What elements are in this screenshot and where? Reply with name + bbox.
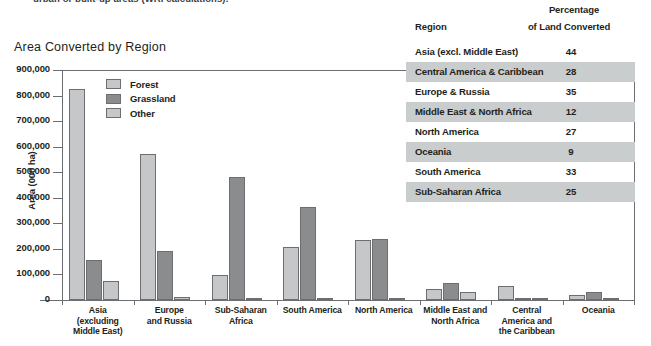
y-axis-tick: 100,000 <box>0 274 62 275</box>
table-cell-region: Asia (excl. Middle East) <box>415 46 518 57</box>
y-axis-tick-label: 200,000 <box>16 242 50 253</box>
table-cell-percentage: 33 <box>553 166 589 177</box>
x-axis-category-line: Central <box>491 305 563 316</box>
y-axis-tick-mark <box>53 70 62 71</box>
x-axis-category-line: North Africa <box>420 316 492 327</box>
table-cell-percentage: 12 <box>553 106 589 117</box>
y-axis-tick-mark <box>53 198 62 199</box>
x-axis-category-label: CentralAmerica andthe Caribbean <box>491 305 563 337</box>
table-cell-region: Central America & Caribbean <box>415 66 543 77</box>
table-cell-region: South America <box>415 166 480 177</box>
y-axis-tick-label: 100,000 <box>16 267 50 278</box>
legend-swatch <box>106 94 121 104</box>
x-axis-category-line: Europe <box>134 305 206 316</box>
y-axis-tick: 0 <box>0 300 62 301</box>
chart-title: Area Converted by Region <box>14 40 166 54</box>
y-axis-tick-label: 800,000 <box>16 89 50 100</box>
y-axis-tick-mark <box>53 121 62 122</box>
y-axis-label: Area (000 ha) <box>26 126 37 236</box>
x-axis-category-line: Sub-Saharan <box>205 305 277 316</box>
x-axis-category-line: America and <box>491 316 563 327</box>
x-axis-tick <box>634 300 635 305</box>
y-axis-tick-label: 700,000 <box>16 114 50 125</box>
y-axis-tick: 900,000 <box>0 70 62 71</box>
y-axis-tick-mark <box>53 274 62 275</box>
x-axis-category-line: Africa <box>205 316 277 327</box>
x-axis-category-line: Asia <box>62 305 134 316</box>
x-axis-category-label: Sub-SaharanAfrica <box>205 305 277 326</box>
table-row: Asia (excl. Middle East)44 <box>406 42 635 62</box>
table-cell-percentage: 28 <box>553 66 589 77</box>
percentage-table: Region Percentage of Land Converted Asia… <box>406 0 635 202</box>
legend-label: Other <box>130 108 155 119</box>
y-axis-tick-mark <box>53 172 62 173</box>
table-row: Middle East & North Africa12 <box>406 102 635 122</box>
legend-swatch <box>106 108 121 118</box>
table-header-percentage-line1: Percentage <box>518 4 630 15</box>
y-axis-tick: 700,000 <box>0 121 62 122</box>
table-header-percentage-line2: of Land Converted <box>508 21 630 32</box>
y-axis-tick-label: 0 <box>45 293 50 304</box>
table-cell-region: North America <box>415 126 479 137</box>
x-axis-category-label: Middle East andNorth Africa <box>420 305 492 326</box>
chart-legend: ForestGrasslandOther <box>106 77 176 121</box>
legend-swatch <box>106 79 121 89</box>
y-axis-tick-label: 900,000 <box>16 63 50 74</box>
table-cell-region: Middle East & North Africa <box>415 106 532 117</box>
table-header-region: Region <box>415 21 447 32</box>
table-row: Sub-Saharan Africa25 <box>406 182 635 202</box>
table-cell-percentage: 27 <box>553 126 589 137</box>
bar-group <box>212 70 262 300</box>
table-body: Asia (excl. Middle East)44Central Americ… <box>406 42 635 202</box>
table-row: Oceania9 <box>406 142 635 162</box>
y-axis-tick-mark <box>53 300 62 301</box>
x-axis-category-line: Middle East) <box>62 326 134 337</box>
legend-item: Grassland <box>106 92 176 107</box>
y-axis-tick-mark <box>53 249 62 250</box>
table-row: Central America & Caribbean28 <box>406 62 635 82</box>
legend-item: Forest <box>106 77 176 92</box>
y-axis-tick-mark <box>53 223 62 224</box>
table-cell-region: Oceania <box>415 146 451 157</box>
table-row: North America27 <box>406 122 635 142</box>
legend-label: Grassland <box>130 93 176 104</box>
table-row: South America33 <box>406 162 635 182</box>
y-axis-tick-mark <box>53 96 62 97</box>
table-cell-percentage: 9 <box>553 146 589 157</box>
x-axis-category-line: Oceania <box>563 305 635 316</box>
x-axis-category-line: North America <box>348 305 420 316</box>
x-axis-category-line: (excluding <box>62 316 134 327</box>
y-axis-tick-mark <box>53 147 62 148</box>
table-cell-percentage: 44 <box>553 46 589 57</box>
table-header: Region Percentage of Land Converted <box>406 0 635 42</box>
x-axis-line <box>40 300 635 301</box>
table-cell-region: Europe & Russia <box>415 86 490 97</box>
x-axis-category-line: South America <box>277 305 349 316</box>
x-axis-category-line: Middle East and <box>420 305 492 316</box>
x-axis-category-label: Asia(excludingMiddle East) <box>62 305 134 337</box>
table-row: Europe & Russia35 <box>406 82 635 102</box>
legend-item: Other <box>106 106 176 121</box>
x-axis-category-label: South America <box>277 305 349 316</box>
table-cell-percentage: 35 <box>553 86 589 97</box>
x-axis-category-label: Oceania <box>563 305 635 316</box>
y-axis-tick: 800,000 <box>0 96 62 97</box>
table-cell-region: Sub-Saharan Africa <box>415 186 501 197</box>
table-cell-percentage: 25 <box>553 186 589 197</box>
x-axis-category-line: the Caribbean <box>491 326 563 337</box>
x-axis-category-label: North America <box>348 305 420 316</box>
x-axis-category-line: and Russia <box>134 316 206 327</box>
bar-group <box>283 70 333 300</box>
x-axis-category-label: Europeand Russia <box>134 305 206 326</box>
legend-label: Forest <box>130 79 158 90</box>
bar-group <box>355 70 405 300</box>
y-axis-tick: 200,000 <box>0 249 62 250</box>
